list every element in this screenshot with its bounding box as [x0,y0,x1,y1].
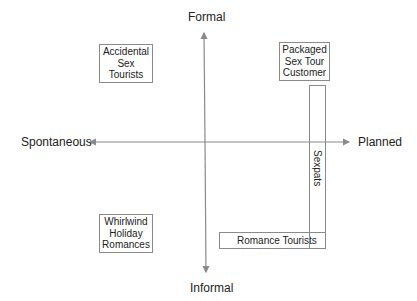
box-line: Customer [282,67,326,79]
box-line: Sex Tour [282,56,326,68]
axes-layer [0,0,417,301]
box-line: Romances [102,239,150,251]
box-line: Sex [103,58,149,70]
axis-label-right: Planned [358,135,402,149]
box-line: Holiday [102,228,150,240]
box-whirlwind-holiday-romances: Whirlwind Holiday Romances [99,214,153,253]
box-accidental-sex-tourists: Accidental Sex Tourists [99,44,153,83]
box-line: Accidental [103,46,149,58]
vertical-axis-arrow-up [204,33,205,142]
bar-label-sexpats: Sexpats [312,150,323,186]
box-line: Packaged [282,44,326,56]
axis-label-top: Formal [188,10,225,24]
box-line: Whirlwind [102,216,150,228]
axis-label-left: Spontaneous [21,135,92,149]
box-packaged-sex-tour-customer: Packaged Sex Tour Customer [279,42,330,81]
bar-label-romance-tourists: Romance Tourists [237,235,317,247]
axis-label-bottom: Informal [190,281,233,295]
vertical-axis-arrow-down [205,142,206,272]
box-line: Tourists [103,69,149,81]
